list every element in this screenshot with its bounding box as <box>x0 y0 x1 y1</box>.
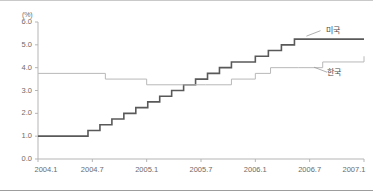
series-line-korea <box>38 56 364 85</box>
series-label-korea: 한국 <box>327 66 341 77</box>
series-line-us <box>38 39 364 136</box>
series-label-us: 미국 <box>326 24 340 35</box>
chart-container: (%) 0.01.02.03.04.05.06.0 2004.12004.720… <box>0 0 373 191</box>
annotation-leader-line <box>306 31 320 36</box>
plot-area <box>0 0 373 191</box>
